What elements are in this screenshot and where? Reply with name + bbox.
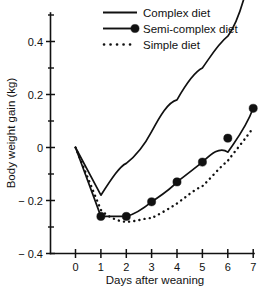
x-axis-tick-labels: 0 1 2 3 4 5 6 7 [72, 261, 256, 273]
y-tick-label-0: 0 [37, 142, 43, 154]
legend-item-complex-diet: Complex diet [103, 7, 211, 19]
y-tick-label-neg0.4: − 0.4 [18, 248, 43, 260]
data-point-day1 [97, 212, 105, 220]
x-axis-title: Days after weaning [106, 274, 204, 286]
legend-label-simple-diet: Simple diet [143, 39, 201, 51]
data-point-day5 [198, 158, 206, 166]
legend: Complex diet Semi-complex diet Simple di… [103, 7, 238, 51]
y-tick-label-0.4: 0.4 [28, 36, 43, 48]
legend-item-simple-diet: Simple diet [104, 39, 201, 51]
x-tick-label-7: 7 [250, 261, 256, 273]
legend-label-semi-complex-diet: Semi-complex diet [143, 23, 238, 35]
x-tick-label-1: 1 [98, 261, 104, 273]
data-point-day4 [173, 178, 181, 186]
legend-swatch-circle-icon [131, 24, 139, 32]
y-tick-label-neg0.2: − 0.2 [18, 195, 43, 207]
x-tick-label-5: 5 [199, 261, 205, 273]
x-tick-label-4: 4 [174, 261, 180, 273]
y-axis-tick-labels: 0.4 0.2 0 − 0.2 − 0.4 [18, 36, 43, 260]
line-chart: 0.4 0.2 0 − 0.2 − 0.4 0 1 2 3 4 5 6 7 [0, 0, 264, 286]
chart-figure: 0.4 0.2 0 − 0.2 − 0.4 0 1 2 3 4 5 6 7 [0, 0, 264, 286]
y-axis-title: Body weight gain (kg) [5, 78, 17, 189]
x-tick-label-2: 2 [123, 261, 129, 273]
data-point-day3 [148, 198, 156, 206]
legend-item-semi-complex-diet: Semi-complex diet [103, 23, 238, 35]
data-point-day2 [122, 212, 130, 220]
y-tick-label-0.2: 0.2 [28, 89, 43, 101]
x-tick-label-0: 0 [72, 261, 78, 273]
data-point-day6 [224, 134, 232, 142]
legend-label-complex-diet: Complex diet [143, 7, 211, 19]
x-tick-label-3: 3 [149, 261, 155, 273]
x-tick-label-6: 6 [225, 261, 231, 273]
series-line-semi-complex-diet [76, 108, 254, 216]
data-point-day7 [249, 104, 257, 112]
